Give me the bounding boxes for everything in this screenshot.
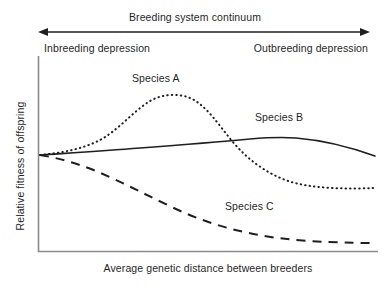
series-label-species-c: Species C <box>225 200 274 212</box>
curve-species-b <box>40 137 375 156</box>
outbreeding-depression-label: Outbreeding depression <box>254 42 368 54</box>
curve-species-c <box>40 155 375 243</box>
continuum-title: Breeding system continuum <box>0 11 390 23</box>
y-axis-label: Relative fitness of offspring <box>14 76 26 256</box>
continuum-arrow-icon <box>38 28 370 36</box>
figure-container: Breeding system continuum Inbreeding dep… <box>0 0 390 287</box>
inbreeding-depression-label: Inbreeding depression <box>44 42 150 54</box>
series-label-species-b: Species B <box>255 111 303 123</box>
series-label-species-a: Species A <box>132 72 180 84</box>
x-axis-label: Average genetic distance between breeder… <box>38 262 378 274</box>
